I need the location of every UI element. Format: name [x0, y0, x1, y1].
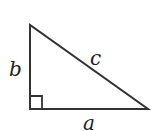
right-angle-marker — [30, 96, 42, 109]
label-b: b — [9, 57, 22, 81]
label-c: c — [90, 46, 101, 70]
label-a: a — [83, 111, 95, 131]
right-triangle-diagram: b c a — [0, 0, 156, 131]
triangle-shape — [30, 25, 148, 109]
